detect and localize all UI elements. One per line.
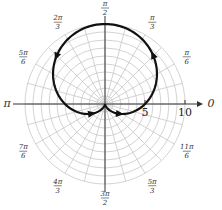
angle-label: π2 [101,0,109,17]
grid-spoke [36,64,105,104]
grid-spoke [105,104,126,181]
svg-text:2: 2 [102,9,108,17]
svg-text:5π: 5π [19,49,28,57]
angle-label: 3π2 [100,190,109,207]
grid-spoke [84,104,105,181]
svg-text:5π: 5π [148,178,157,186]
grid-spoke [36,104,105,144]
svg-text:4π: 4π [52,178,62,186]
grid-spoke [105,64,174,104]
svg-text:7π: 7π [19,143,28,151]
grid-spoke [65,35,105,104]
svg-text:2π: 2π [52,14,62,22]
axis-arrow-icon [197,101,203,107]
angle-label: π [2,97,11,110]
grid-spoke [84,27,105,104]
svg-text:π: π [183,49,189,57]
angle-label: π3 [148,14,156,31]
angle-label: 4π3 [52,178,62,195]
svg-text:6: 6 [21,58,26,66]
grid-spoke [105,104,174,144]
grid-spoke [105,35,145,104]
axes: 510 [13,16,203,192]
polar-plot: 510 0π6π3π22π35π6π7π64π33π25π311π6 [0,0,222,210]
svg-text:3π: 3π [100,190,109,198]
radial-tick-label: 10 [178,106,192,119]
svg-text:π: π [149,14,155,22]
svg-text:3: 3 [150,187,155,195]
svg-text:6: 6 [185,152,190,160]
grid-spoke [105,27,126,104]
angle-label: 2π3 [52,14,62,31]
angle-label: 11π6 [180,143,194,160]
grid-spoke [28,83,105,104]
direction-arrow-icon [116,110,125,118]
svg-text:π: π [102,0,108,8]
svg-text:3: 3 [56,187,61,195]
svg-text:11π: 11π [180,143,194,151]
svg-text:6: 6 [185,58,190,66]
angle-label: π6 [183,49,191,66]
grid-spoke [105,83,182,104]
svg-text:3: 3 [150,23,155,31]
direction-arrow-icon [52,52,61,62]
angle-label: 5π3 [148,178,157,195]
angle-label: 0 [208,97,215,110]
svg-text:3: 3 [56,23,61,31]
radial-tick-label: 5 [142,106,149,119]
svg-text:6: 6 [21,152,26,160]
svg-text:2: 2 [102,199,108,207]
angle-label: 7π6 [19,143,28,160]
angle-label: 5π6 [19,49,28,66]
